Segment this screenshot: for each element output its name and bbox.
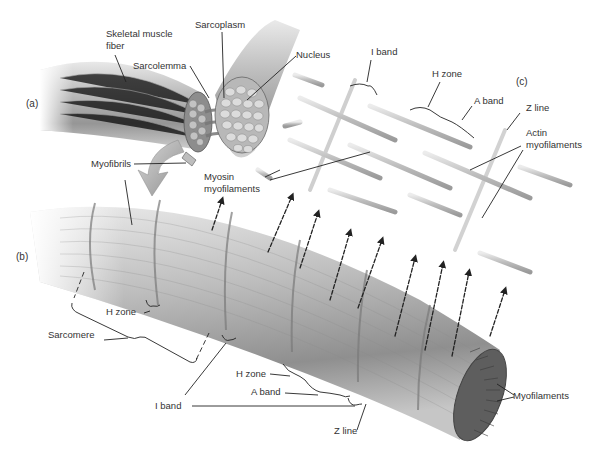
label-h-zone-b-upper: H zone — [106, 306, 136, 317]
label-a-band-b: A band — [251, 386, 281, 397]
label-i-band-c: I band — [371, 46, 397, 57]
panel-label-c: (c) — [516, 76, 528, 87]
label-h-zone-b-lower: H zone — [236, 368, 266, 379]
label-sarcoplasm: Sarcoplasm — [195, 19, 245, 30]
label-sarcomere: Sarcomere — [48, 329, 94, 340]
panel-label-b: (b) — [16, 251, 28, 262]
label-myosin-line2: myofilaments — [204, 183, 260, 194]
label-myofibrils: Myofibrils — [91, 158, 131, 169]
label-skeletal-muscle-fiber-line1: Skeletal muscle — [106, 28, 173, 39]
label-a-band-c: A band — [474, 95, 504, 106]
label-sarcolemma: Sarcolemma — [133, 60, 186, 71]
myofibril-b — [30, 200, 517, 448]
label-h-zone-c: H zone — [432, 68, 462, 79]
diagram-artwork — [0, 0, 599, 454]
label-myofilaments: Myofilaments — [513, 390, 569, 401]
label-actin-line1: Actin — [526, 127, 547, 138]
label-skeletal-muscle-fiber-line2: fiber — [106, 40, 124, 51]
label-myosin-line1: Myosin — [204, 171, 234, 182]
label-actin-line2: myofilaments — [526, 139, 582, 150]
panel-label-a: (a) — [26, 98, 38, 109]
label-z-line-b: Z line — [334, 425, 357, 436]
muscle-structure-diagram: (a) (b) (c) Skeletal muscle fiber Sarcop… — [0, 0, 599, 454]
label-z-line-c: Z line — [526, 102, 549, 113]
transition-arrow — [138, 140, 184, 196]
label-nucleus: Nucleus — [296, 49, 330, 60]
label-i-band-b: I band — [155, 400, 181, 411]
